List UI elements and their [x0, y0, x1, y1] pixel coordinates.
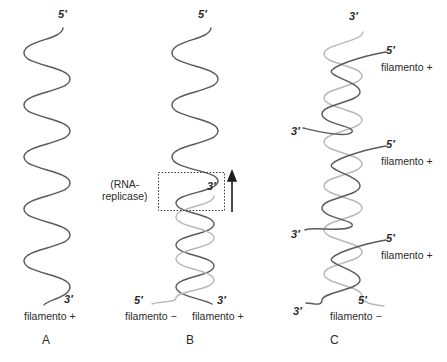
- panel-c-nascent-plus-3: [306, 240, 386, 304]
- panel-c-branch1-three-prime-label: 3′: [291, 125, 300, 138]
- panel-c-nascent-plus-1: [303, 52, 386, 135]
- panel-c-branch2-name-label: filamento +: [381, 155, 433, 167]
- rna-replicase-label-line2: replicase): [102, 190, 148, 202]
- panel-a-strand-label: filamento +: [24, 310, 76, 322]
- panel-c-branch1-name-label: filamento +: [381, 61, 433, 73]
- panel-c-three-prime-top-label: 3′: [349, 10, 358, 23]
- panel-b-strand-minus: [152, 196, 214, 304]
- panel-c-branch2-five-prime-label: 5′: [386, 138, 395, 151]
- panel-c-branch3-three-prime-label: 3′: [293, 305, 302, 318]
- rna-replicase-label: (RNA- replicase): [102, 178, 148, 202]
- panel-c-letter: C: [330, 334, 339, 348]
- panel-c-branch2-three-prime-label: 3′: [291, 228, 300, 241]
- panel-a-three-prime-label: 3′: [64, 293, 73, 306]
- panel-c-branch3-five-prime-label: 5′: [386, 232, 395, 245]
- panel-b-five-prime-top-label: 5′: [198, 8, 207, 21]
- panel-a-strand-plus: [24, 28, 70, 305]
- panel-b-strand-plus-label: filamento +: [192, 310, 244, 322]
- panel-b-five-prime-bottom-label: 5′: [134, 294, 143, 307]
- replication-direction-arrow: [228, 171, 236, 212]
- panel-b-letter: B: [186, 334, 194, 348]
- panel-c-branch1-five-prime-label: 5′: [386, 44, 395, 57]
- panel-b-three-prime-bottom-label: 3′: [217, 294, 226, 307]
- panel-a-five-prime-label: 5′: [58, 8, 67, 21]
- panel-c-nascent-plus-2: [305, 146, 386, 230]
- rna-replicase-label-line1: (RNA-: [110, 178, 139, 190]
- panel-c-bottom-five-prime-label: 5′: [358, 294, 367, 307]
- panel-a-letter: A: [42, 334, 50, 348]
- rna-replication-figure: [0, 0, 447, 362]
- panel-b-three-prime-box-label: 3′: [207, 180, 216, 193]
- panel-c-strand-minus-label: filamento −: [330, 310, 382, 322]
- panel-c-branch3-name-label: filamento +: [381, 249, 433, 261]
- panel-b-strand-minus-label: filamento −: [125, 310, 177, 322]
